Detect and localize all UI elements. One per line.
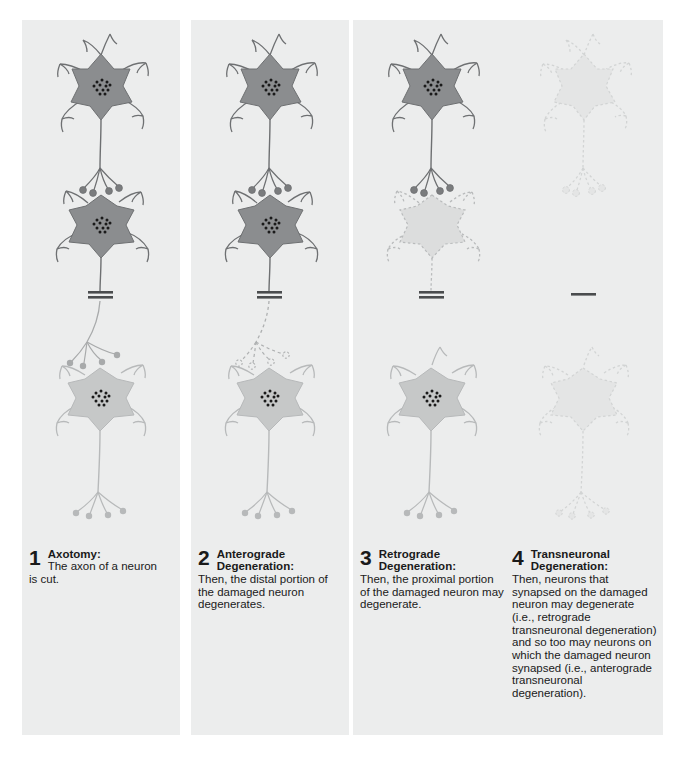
axon-cut-mark [257, 291, 282, 299]
axon-cut-mark [88, 291, 113, 299]
top-neuron-healthy [227, 34, 318, 168]
caption-number: 1 [29, 549, 41, 567]
panel-retrograde-degeneration: 3 Retrograde Degeneration: Then, the pro… [353, 20, 511, 735]
panel-4-illustration [505, 20, 663, 540]
caption-body: Then, the distal portion of the damaged … [198, 573, 343, 611]
top-neuron-terminals [80, 168, 123, 196]
caption-heading-line1: Transneuronal [512, 548, 657, 560]
panel-anterograde-degeneration: 2 Anterograde Degeneration: Then, the di… [191, 20, 349, 735]
panel-transneuronal-degeneration: 4 Transneuronal Degeneration: Then, neur… [505, 20, 663, 735]
caption-heading-line2: Degeneration: [360, 560, 505, 572]
caption-heading-line2: Degeneration: [198, 560, 343, 572]
bottom-neuron-healthy [56, 365, 145, 519]
caption-2: 2 Anterograde Degeneration: Then, the di… [191, 548, 349, 611]
caption-heading-line1: Retrograde [360, 548, 505, 560]
caption-number: 2 [198, 549, 210, 567]
caption-4: 4 Transneuronal Degeneration: Then, neur… [505, 548, 663, 700]
top-neuron-terminals [411, 168, 454, 196]
caption-body: Then, the proximal portion of the damage… [360, 573, 505, 611]
top-neuron-terminals-faint [563, 168, 606, 196]
panel-1-illustration [22, 20, 180, 540]
top-neuron-healthy [389, 34, 480, 168]
panel-axotomy: 1 Axotomy: The axon of a neuron is cut. [22, 20, 180, 735]
middle-neuron-degenerating [387, 191, 479, 292]
caption-heading-line1: Anterograde [198, 548, 343, 560]
caption-body-line2: is cut. [29, 573, 174, 586]
caption-number: 3 [360, 549, 372, 567]
caption-1: 1 Axotomy: The axon of a neuron is cut. [22, 548, 180, 586]
axon-cut-mark [571, 293, 596, 296]
caption-heading: Axotomy: [29, 548, 174, 560]
caption-heading-line2: Degeneration: [512, 560, 657, 572]
caption-number: 4 [512, 549, 524, 567]
caption-3: 3 Retrograde Degeneration: Then, the pro… [353, 548, 511, 611]
distal-axon-degenerating [236, 301, 289, 369]
top-neuron-terminals [249, 168, 292, 196]
panel-2-illustration [191, 20, 349, 540]
distal-axon-intact [67, 301, 120, 369]
degeneration-figure: 1 Axotomy: The axon of a neuron is cut. [0, 0, 692, 760]
axon-cut-mark [419, 291, 444, 299]
bottom-neuron-faint [539, 347, 628, 519]
bottom-neuron-healthy [387, 347, 476, 519]
panel-3-illustration [353, 20, 511, 540]
caption-body-line1: The axon of a neuron [29, 560, 174, 573]
top-neuron-healthy [58, 34, 149, 168]
middle-neuron-healthy [56, 191, 148, 292]
top-neuron-faint [541, 34, 632, 168]
caption-body: Then, neurons that synapsed on the damag… [512, 573, 657, 700]
bottom-neuron-healthy [225, 365, 314, 519]
middle-neuron-healthy [225, 191, 317, 292]
